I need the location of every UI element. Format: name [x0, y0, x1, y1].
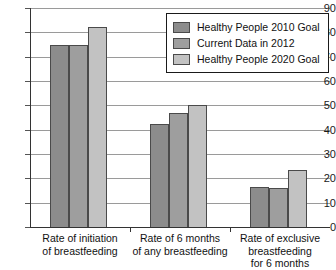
legend-swatch-healthy-people-2010-goal: [173, 22, 190, 33]
category-label: Rate of initiationof breastfeeding: [30, 232, 130, 257]
legend-label: Healthy People 2010 Goal: [197, 22, 320, 33]
legend-item: Healthy People 2020 Goal: [173, 51, 320, 67]
category-label-line: of breastfeeding: [30, 245, 130, 258]
category-label-line: Rate of 6 months: [130, 232, 230, 245]
bar: [69, 45, 88, 228]
legend-swatch-healthy-people-2020-goal: [173, 54, 190, 65]
bar: [88, 27, 107, 227]
legend-label: Healthy People 2020 Goal: [197, 54, 320, 65]
legend-label: Current Data in 2012: [197, 38, 294, 49]
bar: [188, 105, 207, 227]
bar: [269, 188, 288, 227]
bar: [150, 124, 169, 227]
chart-legend: Healthy People 2010 Goal Current Data in…: [166, 13, 329, 73]
bar: [169, 113, 188, 227]
bar: [250, 187, 269, 227]
bar: [50, 45, 69, 228]
category-label-line: for 6 months: [230, 257, 330, 270]
bar: [288, 170, 307, 227]
category-label-line: breastfeeding: [230, 245, 330, 258]
category-label: Rate of exclusivebreastfeedingfor 6 mont…: [230, 232, 330, 270]
category-label-line: Rate of exclusive: [230, 232, 330, 245]
category-label-line: of any breastfeeding: [130, 245, 230, 258]
legend-item: Current Data in 2012: [173, 35, 320, 51]
legend-swatch-current-data-in-2012: [173, 38, 190, 49]
bar-chart: 9080706050403020100 Rate of initiationof…: [0, 0, 336, 270]
legend-item: Healthy People 2010 Goal: [173, 19, 320, 35]
category-label: Rate of 6 monthsof any breastfeeding: [130, 232, 230, 257]
category-label-line: Rate of initiation: [30, 232, 130, 245]
